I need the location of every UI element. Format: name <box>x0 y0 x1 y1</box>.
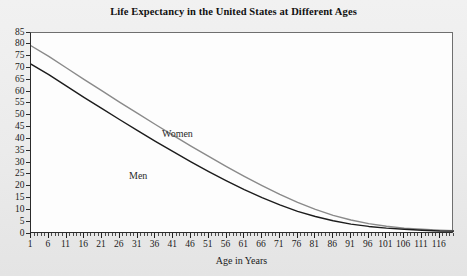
x-axis-tick-minor <box>233 233 234 236</box>
x-axis-tick-minor <box>282 233 283 236</box>
x-axis-tick-minor <box>105 233 106 236</box>
x-axis-tick-minor <box>407 233 408 236</box>
x-axis-tick-minor <box>364 233 365 236</box>
x-axis-tick-major <box>439 233 440 238</box>
x-axis-tick-major <box>261 233 262 238</box>
x-axis-tick-minor <box>73 233 74 236</box>
x-axis-tick-label: 16 <box>79 239 89 249</box>
x-axis-tick-minor <box>325 233 326 236</box>
x-axis-tick-major <box>172 233 173 238</box>
x-axis-tick-major <box>30 233 31 238</box>
x-axis-tick-minor <box>311 233 312 236</box>
x-axis-tick-minor <box>87 233 88 236</box>
x-axis-tick-major <box>66 233 67 238</box>
x-axis-tick-minor <box>300 233 301 236</box>
x-axis-tick-minor <box>389 233 390 236</box>
x-axis-tick-minor <box>44 233 45 236</box>
x-axis-tick-minor <box>197 233 198 236</box>
x-axis-tick-label: 101 <box>378 239 392 249</box>
x-axis-tick-label: 41 <box>167 239 177 249</box>
y-axis-tick: 30 <box>15 157 30 168</box>
x-axis-tick-minor <box>115 233 116 236</box>
y-axis-tick: 50 <box>15 109 30 120</box>
x-axis-tick-major <box>154 233 155 238</box>
x-axis-tick-minor <box>162 233 163 236</box>
x-axis-tick-minor <box>34 233 35 236</box>
x-axis-tick-minor <box>254 233 255 236</box>
x-axis-tick-minor <box>194 233 195 236</box>
x-axis-tick-minor <box>425 233 426 236</box>
x-axis-tick-minor <box>371 233 372 236</box>
x-axis-tick-label: 51 <box>203 239 213 249</box>
x-axis-tick-minor <box>357 233 358 236</box>
x-axis-tick-minor <box>247 233 248 236</box>
y-axis-tick-label: 10 <box>15 204 25 215</box>
x-axis-tick-minor <box>329 233 330 236</box>
x-axis-tick-minor <box>396 233 397 236</box>
x-axis-tick-minor <box>201 233 202 236</box>
x-axis-tick-minor <box>62 233 63 236</box>
series-label-women: Women <box>162 128 193 139</box>
x-axis-tick-label: 56 <box>221 239 231 249</box>
x-axis-tick-minor <box>393 233 394 236</box>
x-axis-tick-major <box>385 233 386 238</box>
x-axis-tick-minor <box>98 233 99 236</box>
x-axis-tick-minor <box>382 233 383 236</box>
x-axis-tick-major <box>226 233 227 238</box>
x-axis-tick-major <box>421 233 422 238</box>
x-axis-tick-minor <box>286 233 287 236</box>
x-axis-tick-minor <box>165 233 166 236</box>
y-axis-tick-label: 85 <box>15 27 25 38</box>
y-axis-tick: 10 <box>15 204 30 215</box>
x-axis-tick-major <box>83 233 84 238</box>
x-axis-tick-minor <box>179 233 180 236</box>
x-axis-tick-major <box>314 233 315 238</box>
x-axis-tick-minor <box>215 233 216 236</box>
y-axis-tick: 45 <box>15 121 30 132</box>
x-axis-tick-major <box>137 233 138 238</box>
x-axis-tick-major <box>403 233 404 238</box>
series-line-women <box>31 46 454 231</box>
y-axis-tick-label: 45 <box>15 121 25 132</box>
x-axis-tick-minor <box>289 233 290 236</box>
x-axis-tick-label: 71 <box>274 239 284 249</box>
x-axis-tick-minor <box>272 233 273 236</box>
y-axis-tick-label: 70 <box>15 62 25 73</box>
x-axis-tick-major <box>48 233 49 238</box>
x-axis-tick-minor <box>442 233 443 236</box>
x-axis-tick-minor <box>112 233 113 236</box>
x-axis-tick-minor <box>318 233 319 236</box>
x-axis-tick-label: 81 <box>310 239 320 249</box>
x-axis-tick-label: 1 <box>28 239 33 249</box>
x-axis-tick-minor <box>229 233 230 236</box>
x-axis-tick-minor <box>361 233 362 236</box>
x-axis-tick-major <box>243 233 244 238</box>
x-axis-tick-minor <box>130 233 131 236</box>
x-axis-tick-minor <box>257 233 258 236</box>
x-axis-tick-minor <box>240 233 241 236</box>
x-axis-tick-label: 31 <box>132 239 142 249</box>
y-axis: 0510152025303540455055606570758085 <box>0 32 30 233</box>
x-axis-tick-minor <box>339 233 340 236</box>
series-label-men: Men <box>129 170 147 181</box>
x-axis-tick-minor <box>80 233 81 236</box>
chart-page: Life Expectancy in the United States at … <box>0 0 467 276</box>
x-axis-tick-label: 11 <box>61 239 70 249</box>
y-axis-tick-label: 5 <box>20 216 25 227</box>
x-axis-tick-minor <box>417 233 418 236</box>
x-axis-tick-minor <box>211 233 212 236</box>
x-axis: 1611162126313641465156616671768186919610… <box>30 233 453 255</box>
x-axis-tick-minor <box>147 233 148 236</box>
y-axis-tick-label: 75 <box>15 50 25 61</box>
x-axis-tick-label: 91 <box>345 239 355 249</box>
x-axis-tick-label: 116 <box>432 239 446 249</box>
y-axis-tick: 75 <box>15 50 30 61</box>
x-axis-tick-label: 86 <box>327 239 337 249</box>
x-axis-tick-minor <box>304 233 305 236</box>
y-axis-tick: 20 <box>15 180 30 191</box>
plot-lines <box>31 33 454 234</box>
y-axis-tick-label: 35 <box>15 145 25 156</box>
x-axis-tick-minor <box>144 233 145 236</box>
x-axis-tick-minor <box>218 233 219 236</box>
x-axis-tick-minor <box>58 233 59 236</box>
